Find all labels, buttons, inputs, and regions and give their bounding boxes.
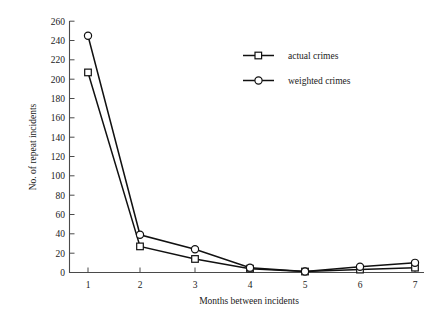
- x-tick-label: 6: [358, 280, 363, 290]
- x-tick-label: 4: [248, 280, 253, 290]
- circle-marker: [246, 264, 253, 271]
- y-tick-label: 140: [51, 133, 66, 143]
- y-tick-label: 180: [51, 94, 66, 104]
- x-tick-label: 5: [303, 280, 308, 290]
- y-tick-label: 0: [60, 268, 65, 278]
- y-tick-label: 40: [56, 229, 66, 239]
- square-marker: [85, 69, 92, 76]
- x-tick-label: 2: [138, 280, 143, 290]
- y-tick-label: 80: [56, 191, 66, 201]
- y-tick-label: 120: [51, 152, 66, 162]
- circle-marker: [301, 268, 308, 275]
- x-axis-tick-labels: 1 2 3 4 5 6 7: [86, 280, 418, 290]
- y-axis-title: No. of repeat incidents: [28, 103, 38, 190]
- x-tick-label: 3: [193, 280, 198, 290]
- square-marker: [192, 256, 199, 263]
- legend-label-weighted-crimes: weighted crimes: [288, 76, 351, 86]
- x-axis-title: Months between incidents: [199, 296, 299, 306]
- y-axis-ticks: [70, 21, 75, 272]
- circle-marker: [191, 246, 198, 253]
- circle-marker: [84, 32, 91, 39]
- y-axis-tick-labels: 0 20 40 60 80 100 120 140 160 180 200 22…: [51, 17, 66, 278]
- y-tick-label: 220: [51, 55, 66, 65]
- y-tick-label: 60: [56, 210, 66, 220]
- x-tick-label: 7: [413, 280, 418, 290]
- circle-marker: [255, 77, 262, 84]
- series-actual-crimes: [85, 69, 419, 275]
- y-tick-label: 200: [51, 75, 66, 85]
- circle-marker: [356, 263, 363, 270]
- circle-marker: [136, 231, 143, 238]
- x-tick-label: 1: [86, 280, 91, 290]
- y-tick-label: 20: [56, 249, 66, 259]
- y-tick-label: 160: [51, 113, 66, 123]
- series-weighted-crimes: [84, 32, 418, 275]
- line-chart: 0 20 40 60 80 100 120 140 160 180 200 22…: [0, 0, 430, 317]
- square-marker: [137, 243, 144, 250]
- series-markers-weighted-crimes: [84, 32, 418, 275]
- circle-marker: [411, 259, 418, 266]
- y-tick-label: 260: [51, 17, 66, 27]
- series-line-actual-crimes: [88, 72, 415, 271]
- y-tick-label: 100: [51, 171, 66, 181]
- chart-container: 0 20 40 60 80 100 120 140 160 180 200 22…: [0, 0, 430, 317]
- chart-legend: actual crimes weighted crimes: [243, 51, 351, 86]
- series-markers-actual-crimes: [85, 69, 419, 275]
- legend-label-actual-crimes: actual crimes: [288, 51, 339, 61]
- square-marker: [255, 52, 262, 59]
- y-tick-label: 240: [51, 36, 66, 46]
